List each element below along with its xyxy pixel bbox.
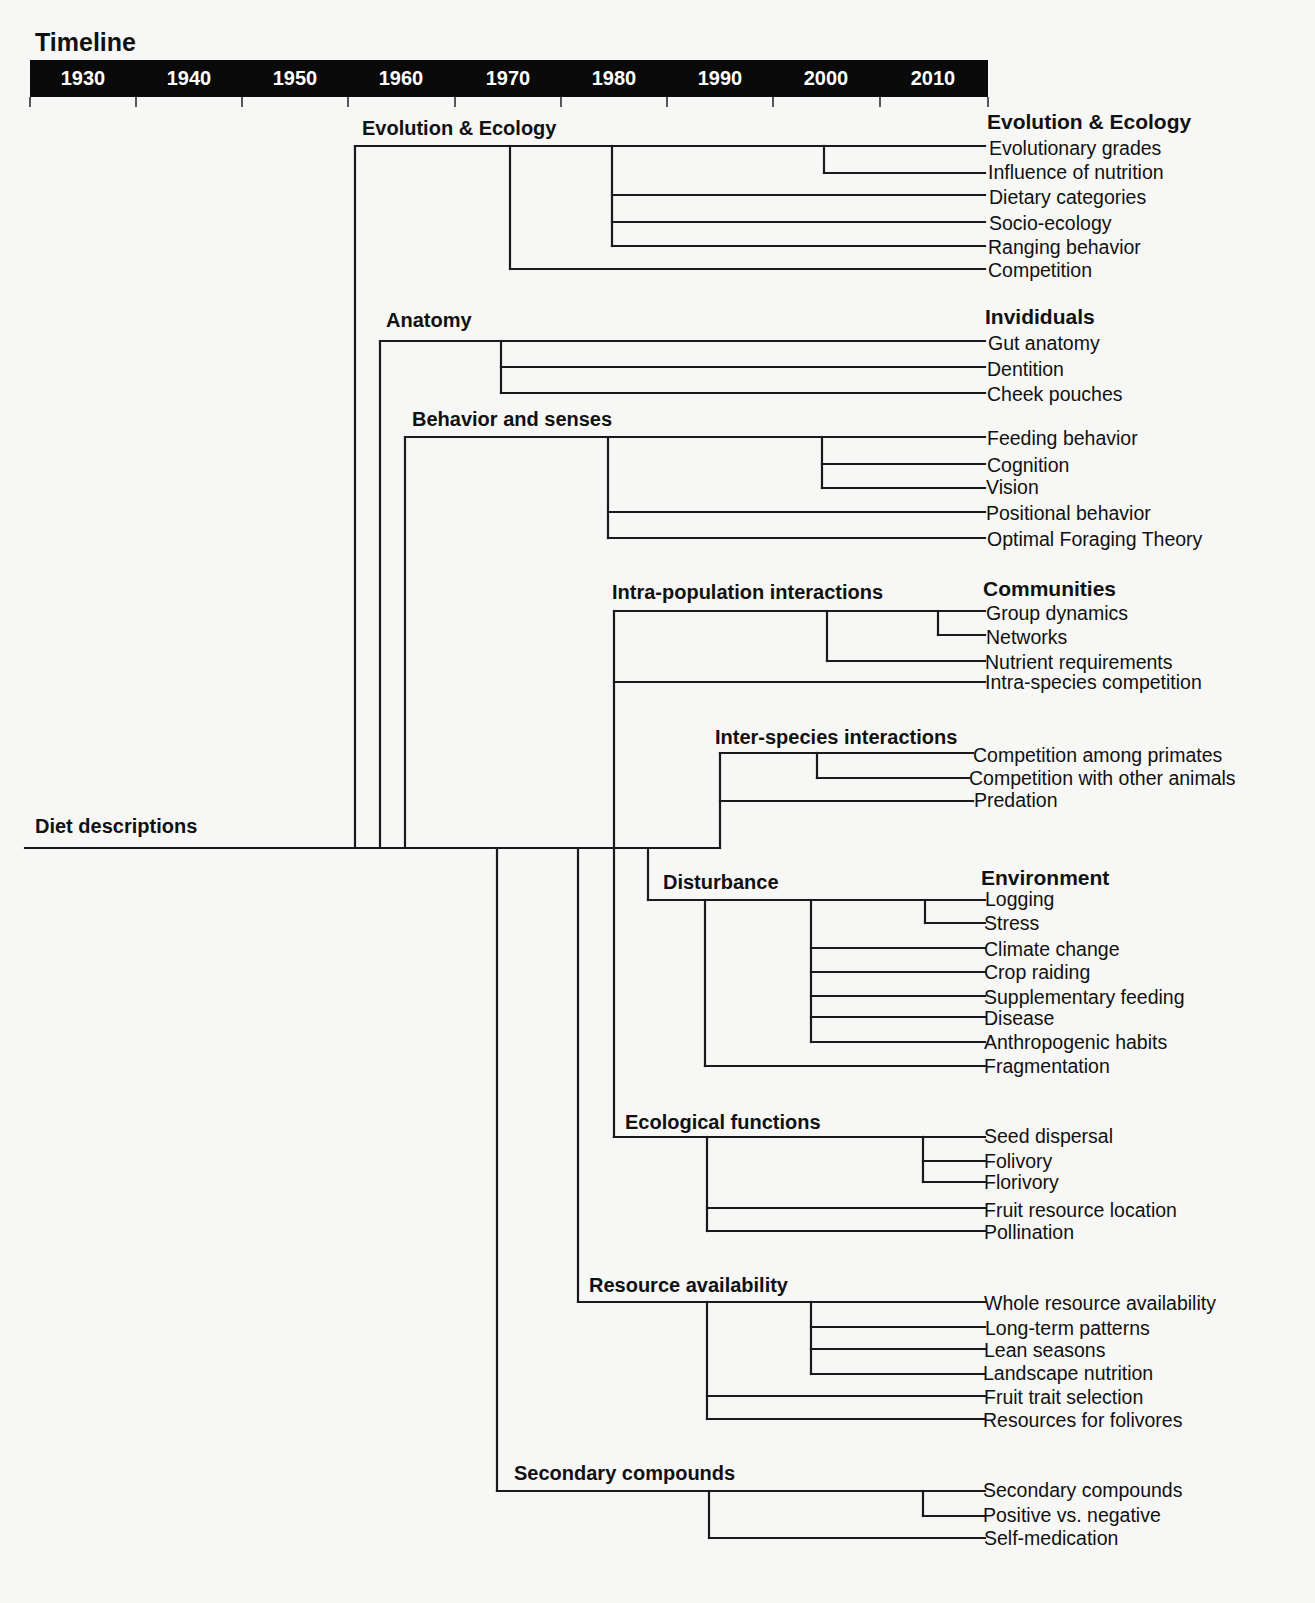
leaf-label: Ranging behavior [988,238,1141,258]
branch-label: Behavior and senses [412,409,612,429]
timeline-year: 1950 [273,68,318,88]
leaf-label: Landscape nutrition [983,1364,1153,1384]
dendrogram-branches [25,146,985,1538]
leaf-label: Logging [985,890,1054,910]
leaf-label: Socio-ecology [989,214,1111,234]
category-heading: Communities [983,578,1116,599]
leaf-label: Cheek pouches [987,385,1123,405]
leaf-label: Positional behavior [986,504,1151,524]
timeline-year: 1930 [61,68,106,88]
leaf-label: Intra-species competition [985,673,1202,693]
leaf-label: Evolutionary grades [989,139,1161,159]
category-heading: Evolution & Ecology [987,111,1191,132]
leaf-label: Networks [986,628,1067,648]
timeline-year: 1970 [486,68,531,88]
leaf-label: Competition among primates [973,746,1222,766]
branch-label: Ecological functions [625,1112,821,1132]
leaf-label: Disease [984,1009,1054,1029]
leaf-label: Self-medication [984,1529,1118,1549]
leaf-label: Supplementary feeding [984,988,1185,1008]
branch-label: Evolution & Ecology [362,118,556,138]
timeline-ticks [30,97,988,107]
leaf-label: Whole resource availability [984,1294,1216,1314]
timeline-title: Timeline [35,30,136,55]
leaf-label: Secondary compounds [983,1481,1182,1501]
leaf-label: Climate change [984,940,1120,960]
leaf-label: Fruit resource location [984,1201,1177,1221]
leaf-label: Seed dispersal [984,1127,1113,1147]
timeline-year: 1960 [379,68,424,88]
branch-label: Resource availability [589,1275,788,1295]
leaf-label: Predation [974,791,1057,811]
root-label: Diet descriptions [35,816,197,836]
leaf-label: Folivory [984,1152,1052,1172]
timeline-year: 1940 [167,68,212,88]
leaf-label: Competition [988,261,1092,281]
leaf-label: Fragmentation [984,1057,1110,1077]
leaf-label: Positive vs. negative [983,1506,1161,1526]
leaf-label: Crop raiding [984,963,1090,983]
leaf-label: Anthropogenic habits [984,1033,1167,1053]
branch-label: Disturbance [663,872,779,892]
leaf-label: Nutrient requirements [985,653,1173,673]
timeline-year: 1990 [698,68,743,88]
branch-label: Intra-population interactions [612,582,883,602]
leaf-label: Group dynamics [986,604,1128,624]
leaf-label: Florivory [984,1173,1059,1193]
leaf-label: Competition with other animals [969,769,1236,789]
branch-label: Inter-species interactions [715,727,957,747]
leaf-label: Fruit trait selection [984,1388,1143,1408]
leaf-label: Cognition [987,456,1069,476]
leaf-label: Dentition [987,360,1064,380]
category-heading: Environment [981,867,1109,888]
leaf-label: Gut anatomy [988,334,1100,354]
leaf-label: Influence of nutrition [988,163,1164,183]
leaf-label: Feeding behavior [987,429,1138,449]
category-heading: Invididuals [985,306,1095,327]
leaf-label: Stress [984,914,1039,934]
leaf-label: Dietary categories [989,188,1146,208]
timeline-year: 2010 [911,68,956,88]
leaf-label: Resources for folivores [983,1411,1182,1431]
branch-label: Secondary compounds [514,1463,735,1483]
leaf-label: Pollination [984,1223,1074,1243]
leaf-label: Lean seasons [984,1341,1105,1361]
timeline-year: 1980 [592,68,637,88]
timeline-year: 2000 [804,68,849,88]
branch-label: Anatomy [386,310,472,330]
diet-research-timeline-diagram: Timeline 1930194019501960197019801990200… [0,0,1315,1603]
leaf-label: Vision [986,478,1039,498]
leaf-label: Optimal Foraging Theory [987,530,1202,550]
leaf-label: Long-term patterns [985,1319,1150,1339]
